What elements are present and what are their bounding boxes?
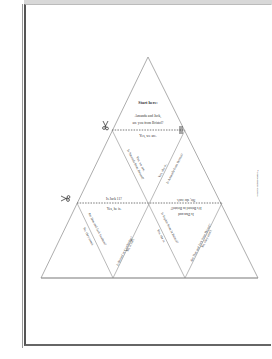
mid-left-above: Is Jack 11?: [106, 197, 122, 201]
scissors-icon: [61, 196, 70, 202]
tarsia-puzzle: Start here: Amanda and Jack, are you fro…: [0, 0, 272, 359]
inner-diag-3: [77, 203, 113, 278]
lower-t1-b: No, they aren't.: [81, 227, 95, 247]
outer-triangle: [41, 57, 258, 278]
mid-right-below-a: It's Bristol in Bristol?: [170, 206, 201, 210]
scissors-icon: [103, 121, 109, 130]
mid-right-below-b: Is Dan and: [178, 212, 194, 216]
top-answer: Yes, we are.: [139, 134, 157, 139]
start-label: Start here:: [138, 100, 158, 105]
top-question-line2: are you from Bristol?: [133, 121, 164, 125]
top-question-line1: Amanda and Jack,: [135, 114, 162, 119]
ur-slant-b: Is Amanda from Bristol?: [165, 152, 184, 184]
ur-slant-a: Yes, she is.: [157, 163, 168, 179]
mid-left-below: Yes, he is.: [107, 207, 122, 212]
mid-right-above: No, she isn't.: [177, 197, 196, 202]
side-note: © photocopiable resource: [256, 170, 259, 198]
